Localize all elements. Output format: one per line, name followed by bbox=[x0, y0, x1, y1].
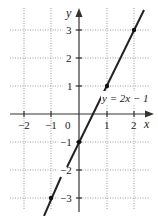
y-tick-label: −3 bbox=[60, 192, 72, 204]
y-axis-arrow-icon bbox=[76, 8, 83, 17]
x-tick-label: 2 bbox=[131, 119, 137, 131]
y-tick-label: −1 bbox=[60, 136, 72, 148]
y-tick-label: −2 bbox=[60, 164, 72, 176]
graph-canvas: y x −2 −1 0 1 2 3 2 1 −1 −2 −3 y = 2x − … bbox=[0, 0, 158, 216]
x-axis-label: x bbox=[143, 117, 150, 131]
y-tick-label: 2 bbox=[66, 52, 72, 64]
point-0-neg1 bbox=[77, 140, 81, 144]
x-tick-label: 1 bbox=[104, 119, 110, 131]
origin-label: 0 bbox=[65, 119, 71, 131]
point-2-3 bbox=[132, 28, 136, 32]
equation-label: y = 2x − 1 bbox=[101, 92, 149, 104]
point-1-1 bbox=[105, 84, 109, 88]
series-line bbox=[44, 10, 144, 216]
y-tick-label: 1 bbox=[67, 80, 73, 92]
point-neg1-neg3 bbox=[49, 196, 53, 200]
axes bbox=[10, 8, 154, 212]
y-axis-label: y bbox=[65, 6, 72, 20]
linear-function-graph: y x −2 −1 0 1 2 3 2 1 −1 −2 −3 y = 2x − … bbox=[0, 0, 158, 216]
y-tick-label: 3 bbox=[66, 24, 72, 36]
grid bbox=[10, 8, 150, 210]
x-tick-label: −1 bbox=[45, 119, 57, 131]
x-tick-label: −2 bbox=[18, 119, 30, 131]
